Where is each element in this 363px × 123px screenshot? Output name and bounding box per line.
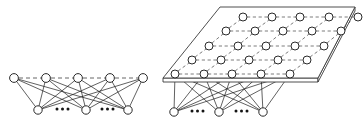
grid-node-r4c0[interactable] (239, 13, 247, 21)
node-lower-v2[interactable] (124, 106, 132, 114)
ellipsis-dot (240, 110, 243, 113)
ellipsis-dot (56, 108, 59, 111)
ellipsis-dot (67, 108, 70, 111)
grid-node-r1c0[interactable] (188, 56, 196, 64)
grid-node-r0c4[interactable] (286, 70, 294, 78)
left-panel-1d-chain (10, 74, 148, 115)
grid-node-r2c3[interactable] (291, 42, 299, 50)
grid-node-r3c1[interactable] (251, 27, 259, 35)
grid-node-r3c3[interactable] (308, 27, 316, 35)
node-lower-v1[interactable] (82, 106, 90, 114)
node-upper-u4[interactable] (139, 74, 148, 83)
grid-node-r4c3[interactable] (325, 13, 333, 21)
grid-node-r0c0[interactable] (171, 70, 179, 78)
node-lower-v0[interactable] (34, 106, 42, 114)
grid-node-r0c2[interactable] (228, 70, 236, 78)
edge-v1-u2 (78, 78, 86, 110)
grid-node-r2c4[interactable] (320, 42, 328, 50)
node-upper-u1[interactable] (42, 74, 51, 83)
ellipsis-dot (246, 110, 249, 113)
right-panel-2d-grid (163, 7, 362, 116)
edge-v0-u4 (38, 78, 143, 110)
ellipsis-dot (106, 108, 109, 111)
grid-node-r1c1[interactable] (217, 56, 225, 64)
grid-node-r3c2[interactable] (279, 27, 287, 35)
right-panel-ellipsis-1 (191, 110, 205, 113)
figure-container (0, 0, 363, 123)
edge-v2-u4 (128, 78, 143, 110)
edge-v0-u3 (38, 78, 110, 110)
edge-v0-u0 (14, 78, 38, 110)
edge-v0-u1 (38, 78, 46, 110)
grid-node-r3c0[interactable] (222, 27, 230, 35)
grid-node-r1c2[interactable] (245, 56, 253, 64)
grid-node-r2c2[interactable] (262, 42, 270, 50)
node-lower-w0[interactable] (170, 108, 178, 116)
grid-node-r4c2[interactable] (296, 13, 304, 21)
node-upper-u2[interactable] (74, 74, 83, 83)
ellipsis-dot (191, 110, 194, 113)
ellipsis-dot (101, 108, 104, 111)
left-panel-upper-nodes (10, 74, 148, 83)
grid-node-r1c3[interactable] (274, 56, 282, 64)
edge-v1-u4 (86, 78, 143, 110)
grid-node-r2c0[interactable] (205, 42, 213, 50)
ellipsis-dot (202, 110, 205, 113)
grid-node-r4c1[interactable] (268, 13, 276, 21)
right-panel-ellipsis-2 (235, 110, 249, 113)
grid-node-r4c4[interactable] (354, 13, 362, 21)
node-upper-u3[interactable] (106, 74, 115, 83)
grid-node-r0c1[interactable] (200, 70, 208, 78)
edge-v2-u2 (78, 78, 128, 110)
ellipsis-dot (61, 108, 64, 111)
ellipsis-dot (196, 110, 199, 113)
edge-v1-u0 (14, 78, 86, 110)
left-panel-ellipsis-1 (56, 108, 70, 111)
node-upper-u0[interactable] (10, 74, 19, 83)
left-panel-ellipsis-2 (101, 108, 115, 111)
ellipsis-dot (112, 108, 115, 111)
node-lower-w1[interactable] (215, 108, 223, 116)
grid-node-r3c4[interactable] (337, 27, 345, 35)
network-diagram-svg (0, 0, 363, 123)
node-lower-w2[interactable] (259, 108, 267, 116)
ellipsis-dot (235, 110, 238, 113)
right-panel-lower-nodes (170, 108, 267, 116)
grid-node-r1c4[interactable] (303, 56, 311, 64)
edge-v1-u1 (46, 78, 86, 110)
grid-node-r0c3[interactable] (257, 70, 265, 78)
grid-node-r2c1[interactable] (234, 42, 242, 50)
plane-front-edge-face (163, 78, 318, 82)
edge-v2-u3 (110, 78, 128, 110)
